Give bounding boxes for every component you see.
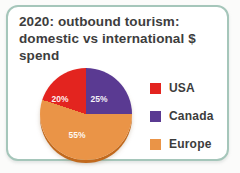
chart-title: 2020: outbound tourism: domestic vs inte… — [19, 13, 223, 64]
pie-slice-label-usa: 20% — [51, 94, 68, 104]
canada-color-swatch-icon — [150, 111, 161, 122]
legend-item-canada: Canada — [150, 109, 214, 123]
chart-card: 2020: outbound tourism: domestic vs inte… — [6, 5, 229, 161]
legend-label-usa: USA — [169, 81, 195, 95]
usa-color-swatch-icon — [150, 83, 161, 94]
legend-label-canada: Canada — [169, 109, 214, 123]
legend-label-europe: Europe — [169, 137, 212, 151]
pie-graphic — [40, 68, 132, 160]
legend: USA Canada Europe — [150, 81, 214, 151]
pie-chart: 20% 25% 55% — [40, 68, 132, 160]
legend-item-europe: Europe — [150, 137, 214, 151]
pie-slice-label-canada: 25% — [90, 94, 107, 104]
pie-slice-label-europe: 55% — [68, 130, 85, 140]
legend-item-usa: USA — [150, 81, 214, 95]
europe-color-swatch-icon — [150, 139, 161, 150]
